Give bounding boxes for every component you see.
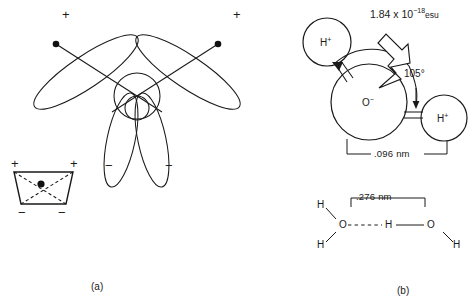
hbond-atom-o-left: O — [339, 219, 347, 230]
oxygen-charge: − — [370, 96, 374, 103]
hbond-distance-label: .276 nm — [356, 191, 392, 202]
electron-dot-left — [53, 41, 60, 48]
hydrogen-charge-right: + — [444, 112, 448, 119]
hbond-atom-h-upper-left: H — [317, 199, 324, 210]
figure-root: + + − − + + − − 1.84 x 10−18esu 105° O− … — [0, 0, 474, 307]
hydrogen-atom-label-right: H+ — [437, 112, 448, 124]
charge-minus-bottom-left: − — [105, 159, 113, 172]
charge-plus-top-right: + — [233, 8, 241, 21]
hydrogen-atom-label-upper: H+ — [320, 36, 331, 48]
oxygen-atom-label: O− — [362, 96, 374, 108]
orbital-lobe-upper-right — [128, 24, 249, 120]
dipole-exponent: −18 — [413, 7, 425, 14]
inset-charge-plus-left: + — [11, 157, 19, 170]
inset-charge-minus-left: − — [18, 206, 26, 219]
tetrahedron-inset-shape — [14, 172, 73, 204]
oxygen-symbol: O — [362, 97, 370, 108]
inset-charge-plus-right: + — [70, 157, 78, 170]
orbital-lobe-upper-left — [26, 24, 147, 120]
dipole-value: 1.84 x 10 — [370, 8, 413, 20]
inset-charge-minus-right: − — [58, 206, 66, 219]
charge-plus-top-left: + — [62, 8, 70, 21]
bond-oxygen-hydrogen-right — [404, 112, 423, 118]
caption-b: (b) — [397, 285, 409, 296]
caption-a: (a) — [91, 281, 103, 292]
hbond-atom-h-lower-left: H — [317, 239, 324, 250]
angle-indicator-arrow — [413, 88, 420, 109]
dipole-units: esu — [425, 10, 439, 20]
dipole-moment-label: 1.84 x 10−18esu — [370, 7, 439, 19]
charge-minus-bottom-right: − — [165, 159, 173, 172]
electron-dot-right — [215, 41, 222, 48]
hbond-atom-o-right: O — [427, 219, 435, 230]
bond-angle-label: 105° — [404, 69, 425, 79]
hbond-atom-h-lower-right: H — [453, 239, 460, 250]
bond-length-label: .096 nm — [374, 148, 410, 159]
hbond-atom-h-middle: H — [385, 219, 392, 230]
inset-center-dot — [37, 180, 44, 187]
hydrogen-charge-upper: + — [327, 36, 331, 43]
